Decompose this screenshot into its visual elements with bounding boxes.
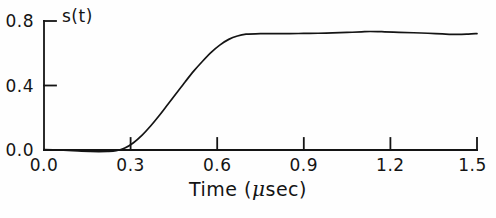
x-axis-ticks bbox=[131, 138, 477, 150]
y-tick-label-0-4: 0.4 bbox=[0, 78, 34, 95]
series-label-s-of-t: s(t) bbox=[62, 8, 93, 25]
y-tick-label-0-8: 0.8 bbox=[0, 13, 34, 30]
x-axis-title-prefix: Time ( bbox=[189, 178, 252, 200]
mu-glyph: μ bbox=[252, 177, 266, 201]
data-curve-s-of-t bbox=[44, 31, 477, 151]
y-axis-ticks bbox=[44, 21, 56, 86]
x-tick-label-0-3: 0.3 bbox=[103, 157, 159, 174]
x-tick-label-0-6: 0.6 bbox=[189, 157, 245, 174]
x-tick-label-0-9: 0.9 bbox=[276, 157, 332, 174]
figure-panel: 0.8 0.4 0.0 0.0 0.3 0.6 0.9 1.2 1.5 s(t)… bbox=[0, 0, 496, 218]
x-axis-title: Time (μsec) bbox=[0, 179, 496, 199]
axis-lines bbox=[44, 21, 477, 150]
x-tick-label-1-5: 1.5 bbox=[449, 157, 496, 174]
x-tick-label-0-0: 0.0 bbox=[16, 157, 72, 174]
x-tick-label-1-2: 1.2 bbox=[362, 157, 418, 174]
x-axis-title-suffix: sec) bbox=[266, 178, 307, 200]
